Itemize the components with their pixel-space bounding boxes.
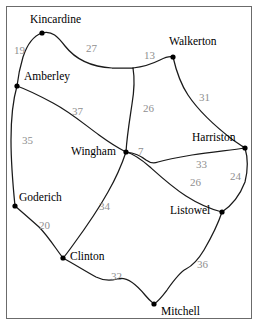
- edge-weight-harriston-listowel_upper: 33: [196, 159, 207, 170]
- road-edge: [154, 212, 222, 304]
- road-edge: [126, 152, 222, 212]
- road-edge: [15, 206, 63, 258]
- city-node-mitchell[interactable]: [151, 301, 156, 306]
- edge-weight-clinton-mitchell: 32: [111, 271, 122, 282]
- city-label-wingham: Wingham: [71, 146, 116, 158]
- city-label-amberley: Amberley: [24, 71, 70, 83]
- map-graphics-layer: [0, 0, 258, 326]
- city-node-goderich[interactable]: [12, 203, 17, 208]
- edge-weight-wingham-walkerton_mid: 26: [143, 103, 154, 114]
- edge-weight-kincardine-walkerton: 27: [86, 43, 97, 54]
- city-label-kincardine: Kincardine: [30, 14, 81, 26]
- road-edge: [63, 258, 154, 304]
- edge-weight-walkerton-harriston: 31: [199, 92, 210, 103]
- edge-weight-goderich-clinton: 20: [39, 220, 50, 231]
- road-edge: [63, 152, 126, 258]
- edge-weight-listowel-mitchell: 36: [197, 259, 208, 270]
- city-node-amberley[interactable]: [14, 83, 19, 88]
- road-network-map-figure: KincardineWalkertonAmberleyHarristonWing…: [0, 0, 258, 326]
- city-node-walkerton[interactable]: [170, 54, 175, 59]
- city-label-goderich: Goderich: [19, 192, 62, 204]
- city-label-clinton: Clinton: [70, 251, 105, 263]
- city-label-mitchell: Mitchell: [161, 306, 200, 318]
- edge-weight-wingham-harriston: 7: [138, 146, 144, 157]
- edge-weight-amberley-wingham: 37: [72, 106, 83, 117]
- road-edge: [17, 86, 126, 152]
- road-edge: [11, 86, 17, 206]
- city-label-harriston: Harriston: [192, 132, 235, 144]
- city-label-walkerton: Walkerton: [169, 36, 217, 48]
- edge-weight-walkerton-wingham: 13: [144, 50, 155, 61]
- city-node-harriston[interactable]: [242, 145, 247, 150]
- edge-weight-kincardine-amberley: 19: [14, 45, 25, 56]
- road-edge: [126, 68, 134, 152]
- city-node-wingham[interactable]: [123, 149, 128, 154]
- city-node-kincardine[interactable]: [39, 30, 44, 35]
- edge-weight-wingham-clinton: 34: [99, 201, 110, 212]
- city-node-listowel[interactable]: [219, 209, 224, 214]
- city-label-listowel: Listowel: [170, 205, 210, 217]
- edge-weight-amberley-goderich: 35: [22, 135, 33, 146]
- edge-weight-harriston-listowel: 24: [230, 171, 241, 182]
- edge-weight-wingham-listowel: 26: [190, 177, 201, 188]
- city-node-clinton[interactable]: [60, 255, 65, 260]
